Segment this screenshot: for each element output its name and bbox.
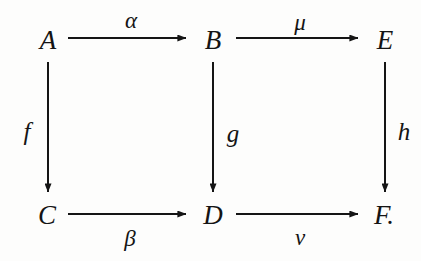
node-f: F. [374,202,394,229]
node-e: E [377,27,394,54]
node-b: B [205,27,222,54]
edge-label-g: g [227,121,240,146]
node-d: D [203,202,223,229]
edge-label-f: f [24,119,31,144]
edge-label-h: h [398,119,411,144]
edge-label-beta: β [124,227,135,250]
node-a: A [40,27,57,54]
edge-label-alpha: α [125,9,137,32]
commutative-diagram: A B E C D F. α μ β ν f g h [0,0,421,261]
edge-label-nu: ν [295,226,305,249]
node-c: C [38,202,56,229]
edge-label-mu: μ [294,11,306,34]
